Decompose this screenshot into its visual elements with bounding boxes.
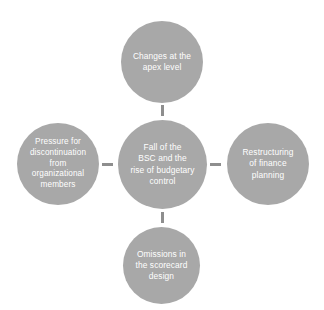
connector-center-to-bottom <box>161 212 164 223</box>
connector-center-to-left <box>102 163 113 166</box>
node-label-omissions-scorecard-design: Omissions in the scorecard design <box>129 249 193 282</box>
node-changes-apex-level[interactable]: Changes at the apex level <box>121 21 203 103</box>
node-fall-of-bsc[interactable]: Fall of the BSC and the rise of budgetar… <box>118 120 207 209</box>
node-restructuring-finance-planning[interactable]: Restructuring of finance planning <box>227 123 309 205</box>
diagram-canvas: Changes at the apex level Pressure for d… <box>0 0 324 310</box>
node-label-fall-of-bsc: Fall of the BSC and the rise of budgetar… <box>124 142 200 186</box>
node-label-pressure-discontinuation: Pressure for discontinuation from organi… <box>24 137 92 191</box>
connector-center-to-right <box>210 163 221 166</box>
node-omissions-scorecard-design[interactable]: Omissions in the scorecard design <box>123 227 200 304</box>
connector-center-to-top <box>161 105 164 116</box>
node-label-changes-apex-level: Changes at the apex level <box>127 51 197 73</box>
node-pressure-discontinuation[interactable]: Pressure for discontinuation from organi… <box>17 123 99 205</box>
node-label-restructuring-finance-planning: Restructuring of finance planning <box>236 147 299 180</box>
